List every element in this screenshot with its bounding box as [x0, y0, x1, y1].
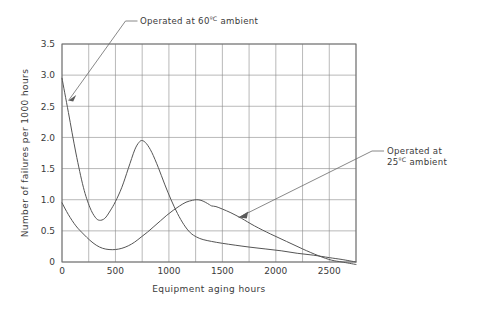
annotation-25c-prefix: 25 [387, 157, 399, 167]
annotation-25c-line2: 25ºC ambient [387, 156, 447, 167]
x-tick-1000: 1000 [157, 266, 180, 276]
grid-horizontal [62, 44, 356, 262]
chart-figure: 0 500 1000 1500 2000 2500 0 0.5 1.0 1.5 … [0, 0, 478, 310]
x-tick-2000: 2000 [264, 266, 287, 276]
annotation-60c-leader [69, 21, 138, 102]
y-axis-label: Number of failures per 1000 hours [20, 69, 30, 238]
chart-svg: 0 500 1000 1500 2000 2500 0 0.5 1.0 1.5 … [0, 0, 478, 310]
annotation-60c-prefix: Operated at 60 [140, 16, 210, 26]
annotation-60c-suffix: ambient [218, 16, 259, 26]
annotation-25c-degree-unit: ºC [399, 156, 407, 163]
y-tick-0: 0 [49, 257, 55, 267]
series-curve-60c [62, 78, 356, 262]
annotation-25c-suffix: ambient [406, 157, 447, 167]
y-tick-0-5: 0.5 [41, 226, 55, 236]
y-tick-labels: 0 0.5 1.0 1.5 2.0 2.5 3.0 3.5 [41, 39, 56, 267]
y-tick-2-0: 2.0 [41, 133, 56, 143]
y-tick-3-0: 3.0 [41, 70, 56, 80]
y-tick-1-0: 1.0 [41, 195, 56, 205]
x-tick-500: 500 [107, 266, 124, 276]
x-tick-2500: 2500 [318, 266, 341, 276]
annotation-60c-text: Operated at 60ºC ambient [140, 15, 259, 26]
grid-vertical [62, 44, 356, 262]
annotation-25c-leader [239, 151, 384, 218]
annotation-25c-line1: Operated at [387, 146, 442, 156]
annotation-60c-degree-unit: ºC [210, 15, 218, 22]
x-axis-label: Equipment aging hours [152, 284, 265, 294]
y-tick-2-5: 2.5 [41, 102, 55, 112]
x-tick-labels: 0 500 1000 1500 2000 2500 [59, 266, 341, 276]
y-tick-1-5: 1.5 [41, 164, 55, 174]
x-tick-1500: 1500 [211, 266, 234, 276]
x-tick-0: 0 [59, 266, 65, 276]
plot-frame [62, 44, 356, 262]
y-tick-3-5: 3.5 [41, 39, 55, 49]
